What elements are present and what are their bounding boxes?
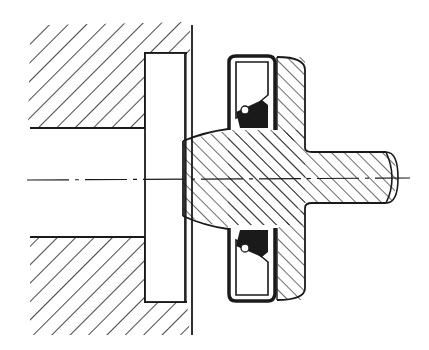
- seal-upper: [229, 56, 277, 130]
- seal-lower: [229, 228, 277, 301]
- shaft-seal-cross-section-drawing: [0, 0, 429, 350]
